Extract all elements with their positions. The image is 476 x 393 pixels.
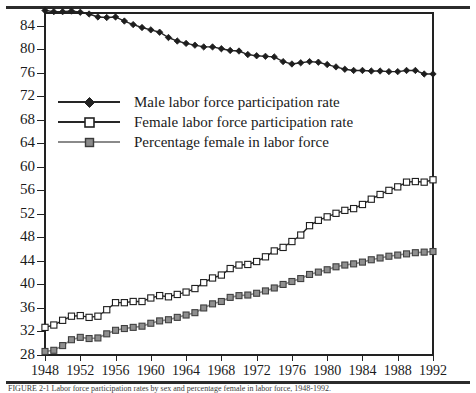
data-point (386, 68, 392, 74)
x-tick-label: 1964 (172, 364, 200, 378)
data-point (112, 14, 118, 20)
y-tick (37, 308, 44, 309)
data-point (421, 71, 427, 77)
series-male (42, 7, 436, 77)
data-point (201, 305, 207, 311)
plot-area: 283236404448525660646872768084 194819521… (44, 12, 434, 356)
data-point (333, 264, 339, 270)
data-point (218, 45, 224, 51)
y-tick-label: 48 (20, 229, 35, 244)
y-tick (37, 96, 44, 97)
data-point (271, 285, 277, 291)
y-tick (37, 73, 44, 74)
x-tick-label: 1948 (31, 364, 59, 378)
data-point (333, 210, 339, 216)
data-point (148, 295, 154, 301)
data-point (350, 67, 356, 73)
data-point (112, 300, 118, 306)
y-tick (37, 331, 44, 332)
data-point (192, 285, 198, 291)
y-tick-label: 64 (20, 135, 35, 150)
data-point (192, 310, 198, 316)
data-point (174, 291, 180, 297)
data-point (377, 255, 383, 261)
data-point (51, 8, 57, 14)
data-point (280, 281, 286, 287)
data-point (95, 14, 101, 20)
y-tick (37, 237, 44, 238)
data-point (298, 60, 304, 66)
series-female (42, 177, 436, 331)
data-point (315, 217, 321, 223)
y-tick (37, 190, 44, 191)
data-point (342, 66, 348, 72)
data-point (60, 343, 66, 349)
data-point (86, 336, 92, 342)
data-point (210, 301, 216, 307)
legend-key-female (58, 115, 120, 129)
data-point (42, 324, 48, 330)
data-point (395, 184, 401, 190)
data-point (130, 21, 136, 27)
data-point (227, 294, 233, 300)
y-tick (37, 26, 44, 27)
data-point (227, 47, 233, 53)
data-point (368, 196, 374, 202)
data-point (139, 298, 145, 304)
data-point (412, 67, 418, 73)
data-point (359, 67, 365, 73)
data-point (68, 337, 74, 343)
data-point (218, 272, 224, 278)
y-tick (37, 284, 44, 285)
y-tick (37, 143, 44, 144)
data-point (183, 40, 189, 46)
legend-key-male (58, 95, 120, 109)
data-point (236, 262, 242, 268)
data-point (130, 298, 136, 304)
data-point (306, 223, 312, 229)
data-point (324, 61, 330, 67)
data-point (86, 11, 92, 17)
data-point (368, 257, 374, 263)
y-tick (37, 167, 44, 168)
data-point (68, 313, 74, 319)
data-point (236, 293, 242, 299)
data-point (86, 314, 92, 320)
data-point (227, 265, 233, 271)
y-tick-label: 32 (20, 323, 35, 338)
data-point (342, 207, 348, 213)
data-point (307, 271, 313, 277)
data-point (254, 290, 260, 296)
data-point (315, 269, 321, 275)
data-point (298, 232, 304, 238)
data-point (306, 58, 312, 64)
x-tick-label: 1968 (207, 364, 235, 378)
data-point (342, 262, 348, 268)
data-point (262, 254, 268, 260)
legend-label-male: Male labor force participation rate (134, 95, 340, 110)
data-point (262, 288, 268, 294)
data-point (104, 307, 110, 313)
y-tick-label: 76 (20, 65, 35, 80)
data-point (430, 71, 436, 77)
data-point (377, 68, 383, 74)
y-tick (37, 355, 44, 356)
x-tick-label: 1972 (243, 364, 271, 378)
data-point (165, 317, 171, 323)
data-point (77, 313, 83, 319)
data-point (368, 68, 374, 74)
legend-label-pct-female: Percentage female in labor force (134, 135, 329, 150)
data-point (403, 67, 409, 73)
data-point (104, 331, 110, 337)
data-point (157, 293, 163, 299)
y-tick-label: 44 (20, 253, 35, 268)
data-point (121, 18, 127, 24)
data-point (139, 323, 145, 329)
data-point (245, 51, 251, 57)
data-point (51, 347, 57, 353)
x-tick-label: 1976 (278, 364, 306, 378)
x-tick-label: 1984 (348, 364, 376, 378)
data-point (201, 44, 207, 50)
y-tick-label: 80 (20, 41, 35, 56)
